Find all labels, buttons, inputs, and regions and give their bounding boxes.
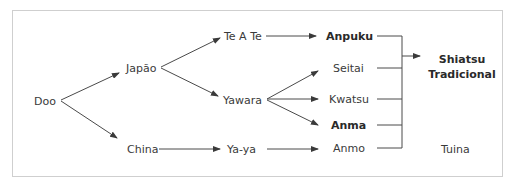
shiatsu-line1: Shiatsu [422,53,502,66]
node-china: China [127,143,158,156]
edge-doo-china [61,101,117,138]
edge-japao-teate [161,38,220,67]
node-anmo: Anmo [333,142,365,155]
edge-doo-japao [61,73,119,100]
node-yaya: Ya-ya [227,143,256,156]
shiatsu-line2: Tradicional [422,68,502,81]
node-yawara: Yawara [223,94,262,107]
node-anma: Anma [331,119,366,132]
edge-yawara-anma [267,100,318,125]
node-anpuku: Anpuku [326,30,373,43]
edge-yawara-seitai [267,71,318,99]
node-doo: Doo [34,95,56,108]
node-tuina: Tuina [441,143,470,156]
node-japao: Japão [126,62,156,75]
node-seitai: Seitai [333,62,364,75]
edge-japao-yawara [161,68,218,96]
node-teate: Te A Te [224,30,262,43]
node-shiatsu-tradicional: Shiatsu Tradicional [422,53,502,81]
node-kwatsu: Kwatsu [329,93,369,106]
